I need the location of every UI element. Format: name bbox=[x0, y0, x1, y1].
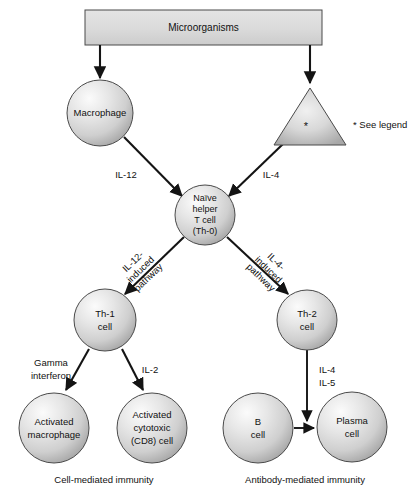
edge-label-il4-pathway: IL-4- induced pathway bbox=[244, 245, 293, 293]
edge-label-il5-lower: IL-5 bbox=[319, 377, 335, 388]
node-activated-macrophage-line1: Activated bbox=[34, 416, 73, 427]
node-b-cell-line1: B bbox=[255, 416, 261, 427]
node-naive-t-line1: Naïve bbox=[193, 193, 217, 203]
diagram-canvas: Microorganisms Macrophage * * See legend… bbox=[0, 0, 414, 495]
node-plasma-cell-line1: Plasma bbox=[336, 415, 368, 426]
node-activated-macrophage-line2: macrophage bbox=[28, 429, 81, 440]
edge-th1-to-activated-cytotoxic bbox=[122, 349, 143, 390]
node-th2-line2: cell bbox=[300, 321, 314, 332]
edge-label-il12-pathway: IL-12- induced pathway bbox=[116, 245, 165, 293]
node-activated-cytotoxic-line3: (CD8) cell bbox=[131, 435, 173, 446]
edge-label-gamma-interferon-line2: interferon bbox=[31, 370, 71, 381]
node-naive-t-line4: (Th-0) bbox=[193, 226, 218, 236]
edge-label-il12-upper: IL-12 bbox=[115, 169, 137, 180]
edge-label-il4-lower: IL-4 bbox=[319, 364, 335, 375]
caption-antibody-mediated-immunity: Antibody-mediated immunity bbox=[245, 474, 365, 485]
node-apc-triangle bbox=[274, 88, 346, 145]
edge-label-il4-upper: IL-4 bbox=[263, 169, 279, 180]
see-legend-label: * See legend bbox=[353, 119, 407, 130]
node-naive-t-line3: T cell bbox=[194, 215, 215, 225]
node-plasma-cell-line2: cell bbox=[345, 428, 359, 439]
edge-label-gamma-interferon-line1: Gamma bbox=[34, 357, 69, 368]
immunity-pathway-diagram: Microorganisms Macrophage * * See legend… bbox=[0, 0, 414, 495]
node-activated-cytotoxic-line1: Activated bbox=[132, 409, 171, 420]
node-naive-t-line2: helper bbox=[192, 204, 217, 214]
node-th1-line2: cell bbox=[98, 321, 112, 332]
microorganisms-label: Microorganisms bbox=[168, 22, 239, 33]
node-th2-line1: Th-2 bbox=[297, 308, 317, 319]
node-macrophage-label: Macrophage bbox=[74, 107, 127, 118]
caption-cell-mediated-immunity: Cell-mediated immunity bbox=[54, 474, 154, 485]
node-th1-line1: Th-1 bbox=[95, 308, 115, 319]
edge-macrophage-to-naive-t bbox=[124, 137, 182, 196]
node-b-cell-line2: cell bbox=[251, 429, 265, 440]
edge-label-il2: IL-2 bbox=[142, 364, 158, 375]
node-activated-cytotoxic-line2: cytotoxic bbox=[134, 422, 171, 433]
apc-asterisk-mark: * bbox=[304, 120, 309, 132]
